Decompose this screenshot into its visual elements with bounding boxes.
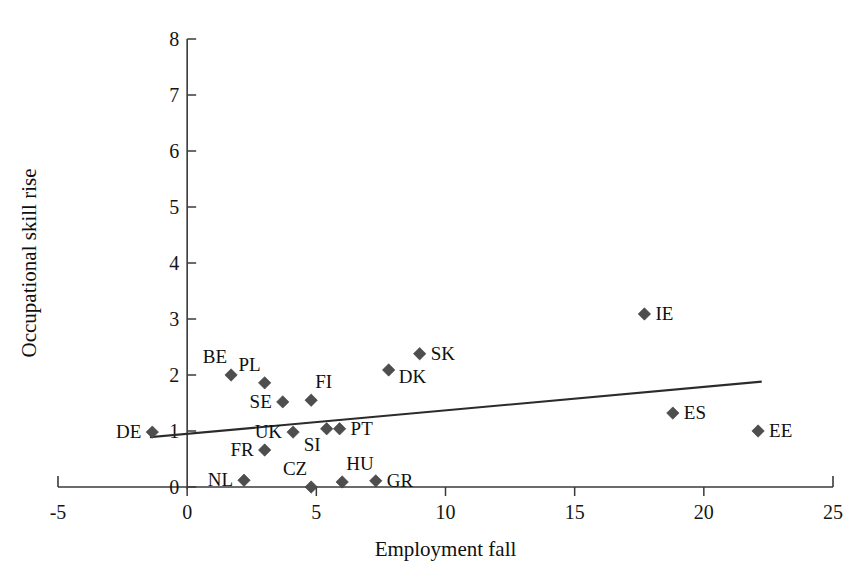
data-point-label: HU xyxy=(346,453,374,474)
data-point-label: FR xyxy=(230,439,254,460)
data-point-label: PL xyxy=(238,354,260,375)
x-tick-label: 0 xyxy=(182,501,192,523)
data-point-marker xyxy=(305,394,317,406)
data-point-marker xyxy=(638,308,650,320)
data-point-label: SI xyxy=(304,434,321,455)
regression-line xyxy=(151,382,761,437)
data-point-label: SE xyxy=(250,391,272,412)
x-tick-label: 5 xyxy=(311,501,321,523)
data-point-label: ES xyxy=(684,402,706,423)
data-point-marker xyxy=(305,481,317,493)
x-tick-label: -5 xyxy=(50,501,67,523)
y-axis-title: Occupational skill rise xyxy=(17,169,41,358)
data-point-marker xyxy=(258,377,270,389)
data-point-marker xyxy=(333,423,345,435)
data-point-marker xyxy=(667,407,679,419)
data-point-label: UK xyxy=(255,421,283,442)
data-point-marker xyxy=(277,396,289,408)
x-axis-title: Employment fall xyxy=(375,537,517,561)
data-point-label: CZ xyxy=(283,458,307,479)
data-point-label: GR xyxy=(387,470,414,491)
y-tick-label: 4 xyxy=(169,252,179,274)
y-tick-label: 1 xyxy=(169,420,179,442)
y-tick-label: 2 xyxy=(169,364,179,386)
x-tick-label: 15 xyxy=(565,501,585,523)
data-point-label: DK xyxy=(399,366,427,387)
plot-area: -50510152025 012345678 DEBENLPLFRSEUKFIC… xyxy=(0,0,868,577)
data-point-marker xyxy=(413,348,425,360)
data-points xyxy=(146,308,764,493)
data-point-marker xyxy=(238,474,250,486)
data-point-label: PT xyxy=(351,418,374,439)
y-tick-label: 5 xyxy=(169,196,179,218)
x-tick-label: 20 xyxy=(694,501,714,523)
y-tick-label: 8 xyxy=(169,28,179,50)
scatter-chart: -50510152025 012345678 DEBENLPLFRSEUKFIC… xyxy=(0,0,868,577)
data-point-label: DE xyxy=(116,421,141,442)
x-tick-label: 10 xyxy=(436,501,456,523)
y-tick-label: 0 xyxy=(169,476,179,498)
data-point-label: SK xyxy=(431,343,456,364)
data-point-marker xyxy=(320,423,332,435)
data-point-label: FI xyxy=(315,371,332,392)
data-point-label: NL xyxy=(208,469,233,490)
data-point-marker xyxy=(225,369,237,381)
y-axis-ticks: 012345678 xyxy=(169,28,196,498)
data-point-labels: DEBENLPLFRSEUKFICZSIPTHUGRDKSKIEESEE xyxy=(116,303,792,491)
trend-line xyxy=(151,382,761,437)
y-tick-label: 7 xyxy=(169,84,179,106)
y-tick-label: 6 xyxy=(169,140,179,162)
data-point-label: EE xyxy=(769,420,792,441)
data-point-marker xyxy=(752,425,764,437)
y-tick-label: 3 xyxy=(169,308,179,330)
data-point-marker xyxy=(287,426,299,438)
data-point-label: BE xyxy=(203,346,227,367)
data-point-marker xyxy=(382,364,394,376)
data-point-marker xyxy=(370,475,382,487)
data-point-marker xyxy=(258,444,270,456)
data-point-label: IE xyxy=(655,303,673,324)
x-tick-label: 25 xyxy=(823,501,843,523)
